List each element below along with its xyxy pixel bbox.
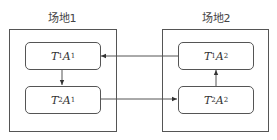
node-t1a1: T1A1	[25, 42, 101, 70]
node-t2a1: T2A1	[25, 86, 101, 114]
node-t1a2: T1A2	[178, 42, 254, 70]
node-t2a2: T2A2	[178, 86, 254, 114]
connection-arrows	[0, 0, 277, 140]
